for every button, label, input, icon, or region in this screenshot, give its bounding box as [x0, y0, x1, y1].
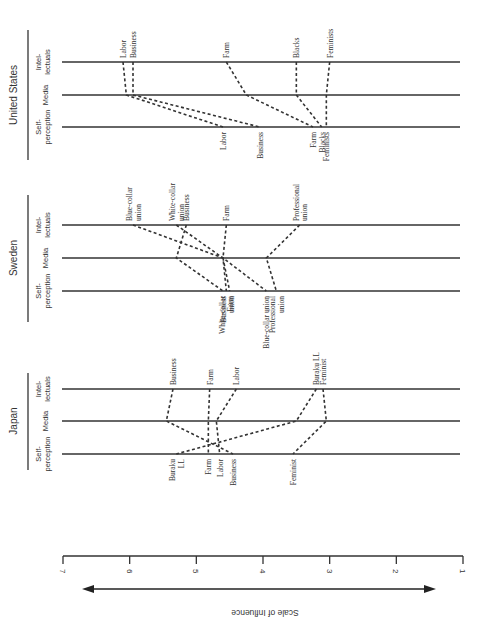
group-label-line: Labor — [219, 132, 228, 150]
row-label-self: Self-perception — [34, 273, 52, 308]
group-label-line: Labor — [232, 367, 241, 385]
row-label-line: Media — [41, 84, 50, 105]
group-label-top: Farm — [222, 42, 231, 58]
row-label-line: lectuals — [43, 376, 52, 402]
row-label-media: Media — [41, 247, 50, 268]
scale-tick-label: 3 — [325, 569, 334, 574]
group-label-line: Business — [129, 31, 138, 58]
group-label-bottom: Feminists — [322, 132, 331, 161]
influence-diagram: United StatesIntel-lectualsMediaSelf-per… — [0, 0, 480, 620]
row-label-line: Intel- — [34, 216, 43, 233]
row-label-line: perception — [43, 109, 52, 144]
group-label-line: LL — [177, 459, 186, 469]
group-label-top: Business — [129, 31, 138, 58]
group-buraku-ll: Buraku LLBurakuLL — [168, 351, 321, 481]
row-label-line: Self- — [34, 446, 43, 462]
group-label-bottom: Feminist — [289, 458, 298, 485]
row-label-line: lectuals — [43, 49, 52, 75]
group-label-top: Business — [182, 194, 191, 221]
group-label-bottom: Labor — [219, 132, 228, 150]
group-label-bottom: Farm — [204, 459, 213, 475]
group-label-bottom: Farm — [309, 132, 318, 148]
group-label-line: Farm — [222, 205, 231, 221]
group-label-line: Feminists — [326, 29, 335, 58]
group-label-line: Feminist — [319, 358, 328, 385]
group-blue-collar-union: Blue-collarunionBlue-collar union — [125, 187, 271, 349]
panel-united-states: United StatesIntel-lectualsMediaSelf-per… — [8, 29, 460, 161]
scale-ticks: 7654321 — [58, 556, 467, 574]
row-label-line: Self- — [34, 119, 43, 135]
row-label-line: perception — [43, 436, 52, 471]
row-label-line: perception — [43, 273, 52, 308]
panels-layer: United StatesIntel-lectualsMediaSelf-per… — [8, 29, 460, 486]
scale-tick-label: 7 — [58, 569, 67, 574]
group-label-top: Feminists — [326, 29, 335, 58]
row-label-self: Self-perception — [34, 109, 52, 144]
arrowhead-left-icon — [82, 585, 94, 593]
scale-tick-label: 2 — [391, 569, 400, 574]
row-label-intellectuals: Intel-lectuals — [34, 212, 52, 238]
group-label-line: union — [300, 204, 309, 221]
group-label-bottom: Professionalunion — [268, 296, 286, 333]
group-label-top: Feminist — [319, 358, 328, 385]
group-label-bottom: Labor — [216, 459, 225, 477]
group-label-line: Farm — [226, 296, 235, 312]
panel-japan: JapanIntel-lectualsMediaSelf-perceptionB… — [8, 351, 460, 485]
group-label-line: union — [134, 204, 143, 221]
group-label-top: Labor — [232, 367, 241, 385]
group-label-top: Blue-collarunion — [125, 187, 143, 221]
row-label-line: Media — [41, 247, 50, 268]
group-label-bottom: BurakuLL — [168, 459, 186, 482]
row-label-media: Media — [41, 410, 50, 431]
row-label-line: Intel- — [34, 380, 43, 397]
country-title: United States — [8, 65, 19, 125]
row-label-line: lectuals — [43, 212, 52, 238]
row-label-line: Intel- — [34, 53, 43, 70]
group-label-line: Business — [256, 132, 265, 159]
country-title: Sweden — [8, 240, 19, 276]
group-label-line: Feminists — [322, 132, 331, 161]
group-label-line: Business — [182, 194, 191, 221]
group-label-bottom: Business — [229, 459, 238, 486]
group-label-bottom: Business — [256, 132, 265, 159]
scale-tick-label: 1 — [458, 569, 467, 574]
group-label-line: Business — [229, 459, 238, 486]
country-title: Japan — [8, 407, 19, 434]
group-label-line: Business — [169, 358, 178, 385]
group-label-line: Farm — [222, 42, 231, 58]
group-label-line: union — [277, 296, 286, 313]
group-label-top: Farm — [222, 205, 231, 221]
group-label-top: Professionalunion — [292, 184, 310, 221]
panel-sweden: SwedenIntel-lectualsMediaSelf-perception… — [8, 183, 460, 349]
scale-tick-label: 5 — [191, 569, 200, 574]
row-label-line: Self- — [34, 283, 43, 299]
group-label-top: Farm — [206, 369, 215, 385]
group-label-line: Farm — [204, 459, 213, 475]
group-label-bottom: Farm — [226, 296, 235, 312]
scale-label: Scale of Influence — [231, 608, 299, 618]
row-label-intellectuals: Intel-lectuals — [34, 49, 52, 75]
group-label-top: Business — [169, 358, 178, 385]
group-label-top: Labor — [119, 40, 128, 58]
group-label-line: Blacks — [292, 38, 301, 58]
group-label-line: Labor — [119, 40, 128, 58]
row-label-line: Media — [41, 410, 50, 431]
scale-tick-label: 4 — [258, 569, 267, 574]
scale-axis: 7654321 Scale of Influence — [58, 556, 467, 618]
row-label-self: Self-perception — [34, 436, 52, 471]
group-label-line: Farm — [309, 132, 318, 148]
row-label-intellectuals: Intel-lectuals — [34, 376, 52, 402]
scale-tick-label: 6 — [125, 569, 134, 574]
group-farm: FarmFarm — [204, 369, 214, 475]
group-label-top: Blacks — [292, 38, 301, 58]
row-label-media: Media — [41, 84, 50, 105]
group-label-line: Farm — [206, 369, 215, 385]
group-label-line: Labor — [216, 459, 225, 477]
arrowhead-right-icon — [424, 585, 436, 593]
group-label-line: Feminist — [289, 458, 298, 485]
